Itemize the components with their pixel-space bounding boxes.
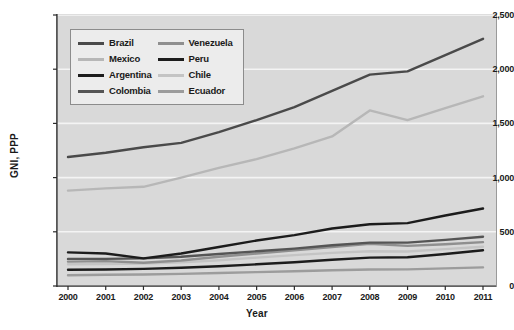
legend-label: Peru: [189, 54, 209, 64]
x-axis-tick-label: 2006: [285, 292, 304, 302]
legend-swatch: [78, 42, 104, 45]
y-axis-tick-label: 2,500: [466, 10, 514, 20]
x-axis-tick-label: 2000: [58, 292, 77, 302]
legend-swatch: [158, 90, 184, 93]
x-axis-tick-label: 2010: [436, 292, 455, 302]
legend-swatch: [158, 74, 184, 77]
legend-label: Chile: [189, 70, 211, 80]
x-axis-tick-label: 2011: [474, 292, 493, 302]
legend-item: Peru: [158, 54, 238, 64]
legend-item: Venezuela: [158, 38, 238, 48]
legend-item: Brazil: [78, 38, 158, 48]
y-axis-tick-label: 1,000: [466, 173, 514, 183]
line-chart: GNI, PPP Year BrazilVenezuelaMexicoPeruA…: [0, 0, 514, 330]
legend-item: Mexico: [78, 54, 158, 64]
x-axis-tick-label: 2004: [209, 292, 228, 302]
x-axis-tick-label: 2008: [360, 292, 379, 302]
legend-item: Colombia: [78, 86, 158, 96]
legend-swatch: [78, 74, 104, 77]
legend-grid: BrazilVenezuelaMexicoPeruArgentinaChileC…: [78, 35, 237, 99]
series-line-mexico: [68, 96, 483, 190]
y-axis-tick-label: 2,000: [466, 64, 514, 74]
legend-swatch: [78, 90, 104, 93]
x-axis-tick-label: 2003: [172, 292, 191, 302]
legend-label: Colombia: [109, 86, 151, 96]
legend: BrazilVenezuelaMexicoPeruArgentinaChileC…: [70, 29, 244, 105]
y-axis-tick-label: 0: [466, 281, 514, 291]
x-axis-tick-label: 2007: [322, 292, 341, 302]
legend-swatch: [158, 58, 184, 61]
legend-swatch: [78, 58, 104, 61]
x-axis-tick-label: 2001: [96, 292, 115, 302]
legend-label: Argentina: [109, 70, 152, 80]
y-axis-tick-label: 500: [466, 227, 514, 237]
legend-label: Mexico: [109, 54, 140, 64]
x-axis-title: Year: [0, 308, 514, 319]
legend-item: Chile: [158, 70, 238, 80]
legend-label: Venezuela: [189, 38, 233, 48]
y-axis-title: GNI, PPP: [9, 116, 20, 196]
x-axis-tick-label: 2002: [134, 292, 153, 302]
x-axis-tick-label: 2009: [398, 292, 417, 302]
x-axis-tick-label: 2005: [247, 292, 266, 302]
legend-item: Argentina: [78, 70, 158, 80]
legend-label: Brazil: [109, 38, 134, 48]
legend-item: Ecuador: [158, 86, 238, 96]
y-axis-tick-label: 1,500: [466, 118, 514, 128]
legend-label: Ecuador: [189, 86, 226, 96]
legend-swatch: [158, 42, 184, 45]
series-line-peru: [68, 250, 483, 270]
